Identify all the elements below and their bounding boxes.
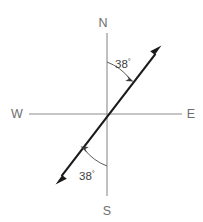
angle-label-top: 38° xyxy=(115,57,131,71)
cardinal-label-east: E xyxy=(187,107,195,121)
bearing-ray xyxy=(56,46,162,185)
compass-axes xyxy=(29,33,182,196)
angle-label-top-value: 38 xyxy=(115,58,128,70)
bearing-ray-line xyxy=(62,54,156,176)
angle-label-bottom-value: 38 xyxy=(79,170,92,182)
bearing-diagram: 38° 38° N S W E xyxy=(0,0,203,222)
cardinal-labels: N S W E xyxy=(11,16,195,218)
cardinal-label-west: W xyxy=(11,107,23,121)
angle-arc-top: 38° xyxy=(107,57,134,82)
cardinal-label-south: S xyxy=(103,204,111,218)
angle-label-top-degree: ° xyxy=(128,57,131,66)
angle-label-bottom-degree: ° xyxy=(92,169,95,178)
angle-label-bottom: 38° xyxy=(79,169,95,183)
angle-arc-bottom-curve xyxy=(85,150,108,167)
angle-arc-top-arrowhead xyxy=(125,75,133,81)
diagram-canvas: 38° 38° N S W E xyxy=(0,0,203,222)
angle-arc-bottom: 38° xyxy=(79,146,107,182)
cardinal-label-north: N xyxy=(98,16,107,30)
